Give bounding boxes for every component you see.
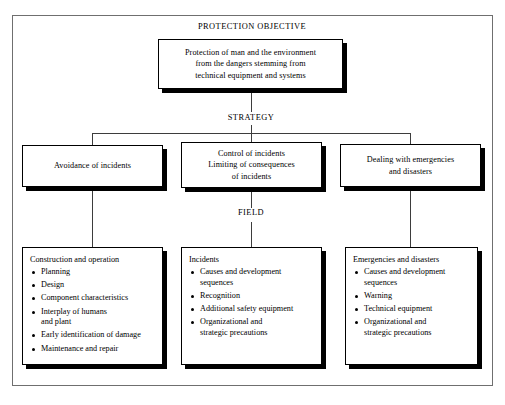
list-item: Recognition <box>189 291 314 302</box>
field-3-item-2: Technical equipment <box>364 304 432 313</box>
node-field-incidents[interactable]: Incidents Causes and developmentsequence… <box>181 247 322 365</box>
connector-objective-to-strategy <box>251 89 252 112</box>
list-item: Interplay of humansand plant <box>30 307 155 328</box>
diagram-canvas: PROTECTION OBJECTIVE Protection of man a… <box>0 0 505 405</box>
caption-field: FIELD <box>211 208 291 217</box>
field-3-item-0: Causes and development <box>364 267 445 276</box>
connector-strategy-drop-left <box>92 133 93 145</box>
field-2-item-1: Recognition <box>200 291 240 300</box>
node-strategy-avoidance[interactable]: Avoidance of incidents <box>22 145 163 187</box>
field-2-item-3-cont: strategic precautions <box>200 328 314 339</box>
node-strategy-emergencies[interactable]: Dealing with emergencies and disasters <box>340 144 481 187</box>
field-3-title: Emergencies and disasters <box>353 254 470 265</box>
list-item: Causes and developmentsequences <box>189 267 314 288</box>
list-item: Causes and developmentsequences <box>353 267 470 288</box>
field-2-item-0-cont: sequences <box>200 278 314 289</box>
caption-protection-objective: PROTECTION OBJECTIVE <box>152 22 352 31</box>
strategy-2-line-3: of incidents <box>232 171 271 182</box>
field-2-title: Incidents <box>189 254 314 265</box>
field-3-item-3: Organizational and <box>364 317 426 326</box>
list-item: Organizational andstrategic precautions <box>189 317 314 338</box>
field-3-list: Causes and developmentsequences Warning … <box>353 267 470 338</box>
connector-field-left <box>92 190 93 247</box>
connector-field-right <box>410 190 411 247</box>
connector-strategy-drop-right <box>410 133 411 144</box>
field-1-item-4: Early identification of damage <box>41 330 141 339</box>
field-1-item-2: Component characteristics <box>41 293 128 302</box>
list-item: Maintenance and repair <box>30 344 155 355</box>
field-1-item-3-cont: and plant <box>41 317 155 328</box>
node-strategy-control[interactable]: Control of incidents Limiting of consequ… <box>181 142 322 188</box>
strategy-2-line-2: Limiting of consequences <box>208 159 295 170</box>
node-field-emergencies[interactable]: Emergencies and disasters Causes and dev… <box>345 247 478 365</box>
node-protection-objective[interactable]: Protection of man and the environment fr… <box>158 39 343 89</box>
connector-field-center-lower <box>251 222 252 247</box>
connector-strategy-bus <box>92 133 411 134</box>
field-2-item-2: Additional safety equipment <box>200 304 293 313</box>
strategy-1-line-1: Avoidance of incidents <box>54 160 131 171</box>
list-item: Warning <box>353 291 470 302</box>
objective-line-1: Protection of man and the environment <box>185 47 316 58</box>
list-item: Technical equipment <box>353 304 470 315</box>
list-item: Component characteristics <box>30 293 155 304</box>
field-2-item-0: Causes and development <box>200 267 281 276</box>
connector-field-center-upper <box>251 190 252 208</box>
caption-strategy: STRATEGY <box>201 113 301 122</box>
field-3-item-1: Warning <box>364 291 392 300</box>
objective-line-2: from the dangers stemming from <box>195 58 305 69</box>
strategy-2-line-1: Control of incidents <box>218 148 285 159</box>
field-2-item-3: Organizational and <box>200 317 262 326</box>
objective-line-3: technical equipment and systems <box>195 70 306 81</box>
list-item: Organizational andstrategic precautions <box>353 317 470 338</box>
list-item: Additional safety equipment <box>189 304 314 315</box>
field-1-item-5: Maintenance and repair <box>41 344 118 353</box>
field-1-item-3: Interplay of humans <box>41 307 107 316</box>
list-item: Design <box>30 280 155 291</box>
field-1-item-1: Design <box>41 280 64 289</box>
field-1-list: Planning Design Component characteristic… <box>30 267 155 354</box>
strategy-3-line-1: Dealing with emergencies <box>367 154 454 165</box>
field-1-title: Construction and operation <box>30 254 155 265</box>
field-2-list: Causes and developmentsequences Recognit… <box>189 267 314 338</box>
node-field-construction[interactable]: Construction and operation Planning Desi… <box>22 247 163 365</box>
field-1-item-0: Planning <box>41 267 70 276</box>
field-3-item-3-cont: strategic precautions <box>364 328 470 339</box>
field-3-item-0-cont: sequences <box>364 278 470 289</box>
list-item: Early identification of damage <box>30 330 155 341</box>
strategy-3-line-2: and disasters <box>389 166 432 177</box>
list-item: Planning <box>30 267 155 278</box>
